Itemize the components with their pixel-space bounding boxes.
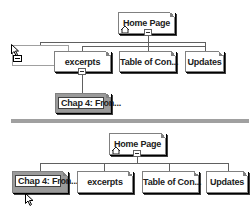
- connector-chap4: [82, 75, 83, 93]
- home-icon: [121, 26, 129, 33]
- collapse-button[interactable]: [144, 29, 152, 36]
- node-table-of-contents[interactable]: Table of Con...: [119, 51, 176, 72]
- node-excerpts[interactable]: excerpts: [77, 171, 133, 193]
- page-fold: [194, 171, 199, 176]
- node-label: excerpts: [78, 177, 132, 187]
- node-label: Updates: [207, 177, 247, 187]
- node-label: Chap 4: Fron...: [58, 97, 104, 109]
- node-label: Updates: [186, 57, 223, 67]
- page-fold: [243, 171, 248, 176]
- connector-toc: [148, 42, 149, 51]
- connector-horizontal: [40, 163, 228, 164]
- node-chap4-selected[interactable]: Chap 4: Fron...: [12, 171, 68, 193]
- page-fold: [170, 12, 175, 17]
- node-table-of-contents[interactable]: Table of Con...: [142, 171, 199, 193]
- node-label: Chap 4: Fron...: [15, 175, 61, 187]
- connector-toc: [169, 163, 170, 171]
- page-fold: [128, 171, 133, 176]
- connector-updates: [205, 42, 206, 51]
- connector-excerpts-h: [82, 46, 205, 47]
- page-fold: [219, 51, 224, 56]
- connector-chap4: [40, 163, 41, 171]
- node-chap4-dragging[interactable]: Chap 4: Fron...: [55, 93, 111, 113]
- connector-updates: [228, 163, 229, 171]
- node-updates[interactable]: Updates: [206, 171, 248, 193]
- page-fold: [106, 51, 111, 56]
- node-label: Table of Con...: [120, 57, 175, 67]
- node-label: Table of Con...: [143, 177, 198, 187]
- home-icon: [112, 147, 120, 154]
- collapse-button[interactable]: [133, 150, 141, 157]
- node-updates[interactable]: Updates: [185, 51, 224, 72]
- page-fold: [171, 51, 176, 56]
- mouse-cursor-icon: [25, 193, 34, 206]
- separator-bar: [11, 119, 249, 123]
- node-label: excerpts: [55, 57, 110, 67]
- collapse-button[interactable]: [78, 68, 86, 75]
- drag-page-icon: [13, 55, 22, 62]
- page-fold: [161, 133, 166, 138]
- connector-excerpts: [104, 163, 105, 171]
- connector-horizontal: [40, 42, 205, 43]
